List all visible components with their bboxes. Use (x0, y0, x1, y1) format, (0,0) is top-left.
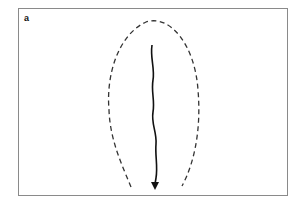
diagram-canvas (0, 0, 301, 202)
wavy-arrow-line (152, 45, 157, 184)
arrowhead-icon (151, 182, 159, 190)
